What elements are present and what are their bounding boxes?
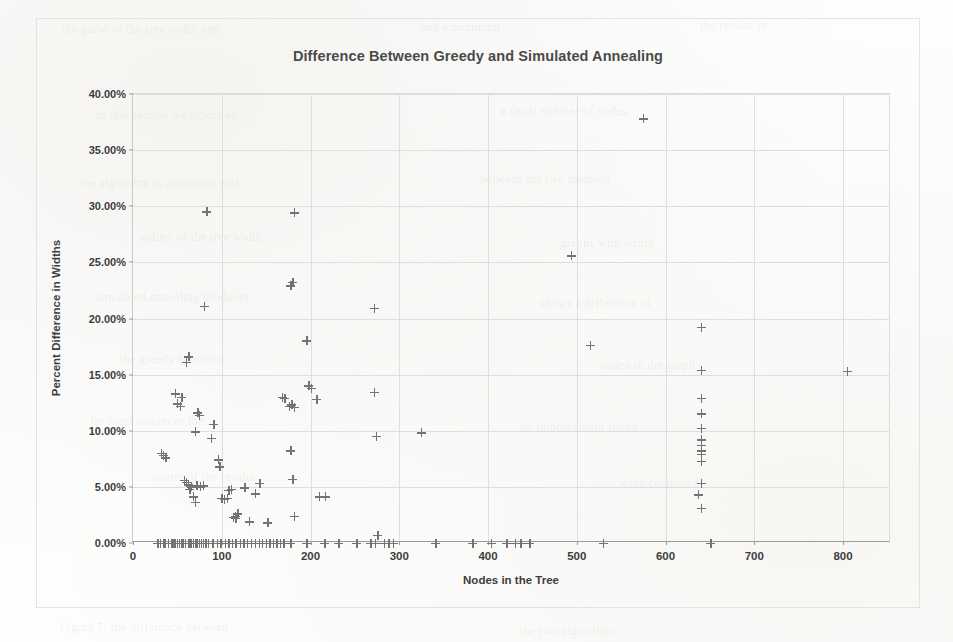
scatter-point [191, 427, 200, 436]
gridline-vertical [843, 94, 844, 541]
x-tick-label: 700 [745, 550, 764, 562]
scatter-point [697, 409, 706, 418]
scatter-point [157, 449, 166, 458]
x-tick-mark [222, 541, 223, 545]
scatter-point [312, 395, 321, 404]
scatter-point [195, 411, 204, 420]
scatter-point [233, 509, 242, 518]
scatter-point [697, 450, 706, 459]
scatter-point [287, 400, 296, 409]
gridline-vertical [754, 94, 755, 541]
y-tick-label: 35.00% [89, 144, 126, 156]
scatter-point [176, 402, 185, 411]
scatter-point [184, 352, 193, 361]
x-tick-label: 200 [301, 550, 320, 562]
scatter-point [200, 302, 209, 311]
x-tick-mark [311, 541, 312, 545]
gridline-horizontal [133, 431, 889, 432]
x-tick-label: 600 [656, 550, 675, 562]
gridline-vertical [488, 94, 489, 541]
y-tick-label: 10.00% [89, 425, 126, 437]
scatter-point [199, 481, 208, 490]
scatter-point [171, 389, 180, 398]
gridline-horizontal [133, 94, 889, 95]
scatter-point [304, 381, 313, 390]
scatter-point [159, 451, 168, 460]
y-tick-mark [129, 94, 133, 95]
scatter-point [280, 394, 289, 403]
scatter-point [202, 207, 211, 216]
x-tick-mark [577, 541, 578, 545]
y-tick-label: 5.00% [95, 481, 126, 493]
scatter-point [697, 504, 706, 513]
x-tick-label: 800 [833, 550, 852, 562]
y-tick-mark [129, 374, 133, 375]
y-tick-mark [129, 318, 133, 319]
scatter-point [639, 114, 648, 123]
y-tick-label: 20.00% [89, 313, 126, 325]
y-tick-label: 0.00% [95, 537, 126, 549]
scatter-point [251, 489, 260, 498]
gridline-vertical [399, 94, 400, 541]
scatter-point [697, 435, 706, 444]
x-tick-mark [666, 541, 667, 545]
scatter-point [286, 281, 295, 290]
scatter-point [177, 393, 186, 402]
scatter-point [694, 490, 703, 499]
scatter-point [697, 323, 706, 332]
scatter-point [288, 475, 297, 484]
x-tick-mark [843, 541, 844, 545]
scatter-point [315, 492, 324, 501]
scatter-point [290, 403, 299, 412]
y-tick-mark [129, 430, 133, 431]
y-tick-label: 40.00% [89, 88, 126, 100]
x-axis-title: Nodes in the Tree [132, 574, 890, 586]
scatter-point [697, 366, 706, 375]
x-tick-label: 300 [390, 550, 409, 562]
x-tick-label: 100 [212, 550, 231, 562]
x-tick-mark [133, 541, 134, 545]
scatter-point [192, 481, 201, 490]
scatter-point [161, 453, 170, 462]
scatter-point [223, 494, 232, 503]
scatter-point [229, 513, 238, 522]
scatter-point [290, 208, 299, 217]
scatter-point [209, 420, 218, 429]
scatter-point [182, 478, 191, 487]
scatter-point [586, 341, 595, 350]
x-tick-label: 500 [567, 550, 586, 562]
scatter-point [697, 446, 706, 455]
gridline-horizontal [133, 206, 889, 207]
scatter-point [245, 517, 254, 526]
scatter-point [278, 393, 287, 402]
gridline-vertical [311, 94, 312, 541]
scatter-point [288, 278, 297, 287]
gridline-horizontal [133, 487, 889, 488]
x-tick-mark [488, 541, 489, 545]
x-tick-label: 400 [478, 550, 497, 562]
scatter-point [697, 441, 706, 450]
scatter-point [567, 251, 576, 260]
scatter-point [240, 483, 249, 492]
scatter-point [290, 512, 299, 521]
scatter-point [370, 304, 379, 313]
gridline-vertical [222, 94, 223, 541]
scatter-point [286, 446, 295, 455]
plot-area: 0.00%5.00%10.00%15.00%20.00%25.00%30.00%… [132, 93, 890, 542]
gridline-horizontal [133, 262, 889, 263]
gridline-horizontal [133, 375, 889, 376]
scatter-point [215, 462, 224, 471]
y-tick-label: 15.00% [89, 369, 126, 381]
scatter-point [191, 498, 200, 507]
y-tick-label: 30.00% [89, 200, 126, 212]
scatter-point [193, 408, 202, 417]
scatter-point [189, 492, 198, 501]
y-tick-mark [129, 262, 133, 263]
scatter-point [697, 394, 706, 403]
gridline-vertical [577, 94, 578, 541]
scatter-point [207, 434, 216, 443]
y-tick-mark [129, 150, 133, 151]
y-tick-mark [129, 486, 133, 487]
scatter-point [180, 476, 189, 485]
y-tick-label: 25.00% [89, 256, 126, 268]
